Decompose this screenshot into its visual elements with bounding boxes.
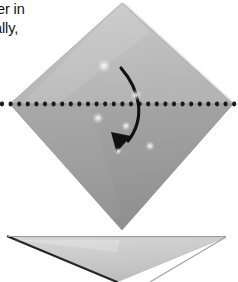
fold-dot [206, 102, 210, 107]
fold-dot [172, 102, 176, 107]
origami-illustration [0, 0, 238, 282]
fold-dot [0, 102, 4, 107]
caption-line-1: per in [0, 0, 58, 19]
fold-dot [112, 102, 116, 107]
paper-highlight [114, 147, 122, 155]
fold-dot [34, 102, 38, 107]
fold-dot [26, 102, 30, 107]
paper-highlight [145, 141, 155, 151]
paper-highlight [121, 121, 131, 131]
fold-dot [232, 102, 236, 107]
fold-dot [189, 102, 193, 107]
paper-highlight [97, 59, 111, 73]
paper-highlight [92, 112, 104, 124]
caption-line-2: ally, [0, 19, 58, 38]
fold-dot [95, 102, 99, 107]
fold-dot [60, 102, 64, 107]
fold-dot [155, 102, 159, 107]
fold-dot [86, 102, 90, 107]
fold-dot [198, 102, 202, 107]
fold-dot [43, 102, 47, 107]
fold-dot [215, 102, 219, 107]
fold-dot [163, 102, 167, 107]
figure-canvas: per in ally, [0, 0, 238, 282]
fold-dot [9, 102, 13, 107]
fold-dot [77, 102, 81, 107]
fold-dot [17, 102, 21, 107]
caption-text: per in ally, [0, 0, 58, 38]
paper-highlight [130, 89, 142, 101]
fold-dot [224, 102, 228, 107]
fold-dot [129, 102, 133, 107]
fold-dot [146, 102, 150, 107]
fold-dot [181, 102, 185, 107]
fold-dot [52, 102, 56, 107]
fold-dot [69, 102, 73, 107]
result-folded-triangle [8, 237, 226, 282]
fold-dot [103, 102, 107, 107]
fold-dot [120, 102, 124, 107]
